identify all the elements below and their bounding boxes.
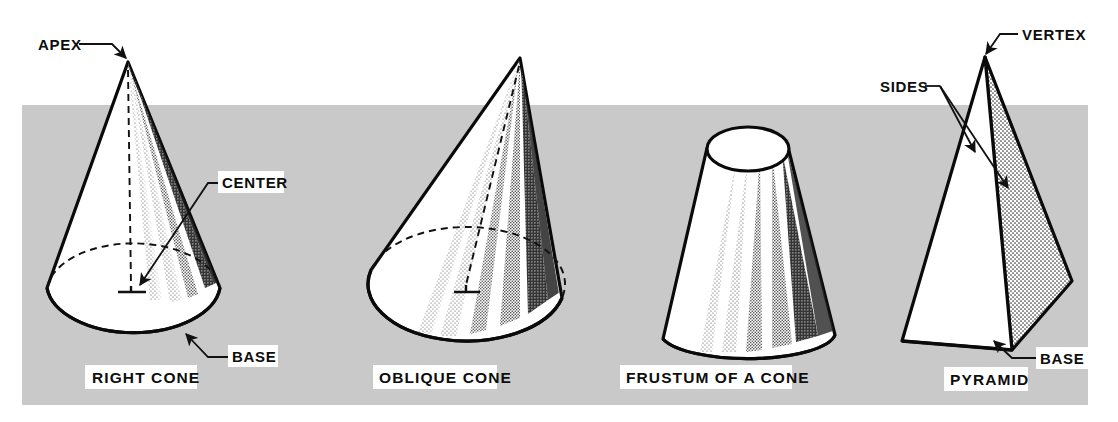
base-cone-label: BASE <box>232 348 276 365</box>
apex-label: APEX <box>38 36 82 53</box>
vertex-label: VERTEX <box>1022 26 1086 43</box>
oblique-cone-caption: OBLIQUE CONE <box>379 369 512 386</box>
geometric-solids-plate: APEX CENTER BASE RIGHT CONE <box>0 0 1118 422</box>
frustum-top-ellipse <box>707 127 789 171</box>
base-pyramid-label: BASE <box>1040 350 1084 367</box>
center-label: CENTER <box>222 174 288 191</box>
pyramid-caption: PYRAMID <box>950 371 1029 388</box>
apex-leader-line <box>79 44 126 58</box>
plate-canvas: APEX CENTER BASE RIGHT CONE <box>0 0 1118 422</box>
sides-label: SIDES <box>880 78 929 95</box>
frustum-caption: FRUSTUM OF A CONE <box>626 369 810 386</box>
right-cone-caption: RIGHT CONE <box>92 369 200 386</box>
vertex-leader-line <box>986 34 1018 54</box>
